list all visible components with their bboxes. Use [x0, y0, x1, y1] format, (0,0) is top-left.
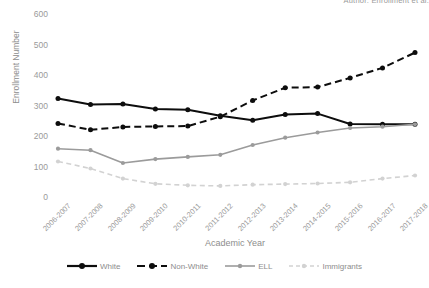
y-tick-600: 600 — [14, 10, 48, 19]
data-point-marker — [413, 122, 417, 126]
data-point-marker — [380, 65, 385, 70]
data-point-marker — [380, 125, 384, 129]
legend-swatch — [289, 261, 319, 271]
legend-item-non-white[interactable]: Non-White — [137, 261, 208, 271]
series-non-white — [56, 50, 418, 132]
legend-swatch — [225, 261, 255, 271]
data-point-marker — [121, 177, 125, 181]
data-point-marker — [316, 181, 320, 185]
data-point-marker — [88, 127, 93, 132]
legend-label: Non-White — [170, 262, 208, 271]
data-point-marker — [380, 177, 384, 181]
legend-item-ell[interactable]: ELL — [225, 261, 272, 271]
data-point-marker — [413, 122, 418, 127]
legend-swatch — [67, 261, 97, 271]
data-point-marker — [120, 125, 125, 130]
y-tick-400: 400 — [14, 71, 48, 80]
data-point-marker — [348, 126, 352, 130]
data-point-marker — [348, 180, 352, 184]
data-point-marker — [88, 148, 92, 152]
data-point-marker — [283, 136, 287, 140]
data-point-marker — [153, 182, 157, 186]
data-point-marker — [185, 107, 190, 112]
legend-swatch — [137, 261, 167, 271]
data-point-marker — [250, 118, 255, 123]
data-point-marker — [348, 75, 353, 80]
series-line — [58, 98, 415, 124]
data-point-marker — [88, 166, 92, 170]
y-tick-100: 100 — [14, 163, 48, 172]
series-white — [56, 96, 418, 127]
data-point-marker — [251, 143, 255, 147]
data-point-marker — [121, 161, 125, 165]
data-point-marker — [283, 182, 287, 186]
y-tick-200: 200 — [14, 132, 48, 141]
data-point-marker — [283, 112, 288, 117]
y-tick-0: 0 — [14, 193, 48, 202]
data-point-marker — [56, 96, 61, 101]
series-line — [58, 162, 415, 186]
data-point-marker — [380, 122, 385, 127]
legend-label: ELL — [258, 262, 272, 271]
data-point-marker — [218, 153, 222, 157]
y-tick-300: 300 — [14, 102, 48, 111]
data-point-marker — [250, 98, 255, 103]
series-immigrants — [56, 159, 417, 188]
data-point-marker — [283, 85, 288, 90]
data-point-marker — [186, 155, 190, 159]
data-point-marker — [413, 50, 418, 55]
data-point-marker — [120, 101, 125, 106]
data-point-marker — [218, 114, 223, 119]
data-point-marker — [88, 102, 93, 107]
series-line — [58, 124, 415, 163]
chart-legend: WhiteNon-WhiteELLImmigrants — [0, 261, 429, 271]
legend-label: White — [100, 262, 120, 271]
data-point-marker — [218, 113, 223, 118]
series-line — [58, 53, 415, 130]
data-point-marker — [315, 85, 320, 90]
data-point-marker — [185, 124, 190, 129]
legend-label: Immigrants — [322, 262, 362, 271]
y-tick-500: 500 — [14, 41, 48, 50]
data-point-marker — [153, 124, 158, 129]
enrollment-line-chart: Author: Enrollment et al. Enrollment Num… — [0, 0, 429, 288]
data-point-marker — [218, 184, 222, 188]
data-point-marker — [153, 107, 158, 112]
data-point-marker — [56, 121, 61, 126]
legend-item-immigrants[interactable]: Immigrants — [289, 261, 362, 271]
data-point-marker — [348, 122, 353, 127]
data-point-marker — [153, 157, 157, 161]
data-point-marker — [316, 130, 320, 134]
data-point-marker — [413, 173, 417, 177]
data-point-marker — [56, 147, 60, 151]
series-ell — [56, 122, 417, 165]
data-point-marker — [251, 183, 255, 187]
data-point-marker — [315, 111, 320, 116]
cropped-header-text: Author: Enrollment et al. — [300, 0, 429, 4]
x-axis-title: Academic Year — [150, 238, 320, 248]
data-point-marker — [186, 183, 190, 187]
data-point-marker — [56, 159, 60, 163]
legend-item-white[interactable]: White — [67, 261, 120, 271]
